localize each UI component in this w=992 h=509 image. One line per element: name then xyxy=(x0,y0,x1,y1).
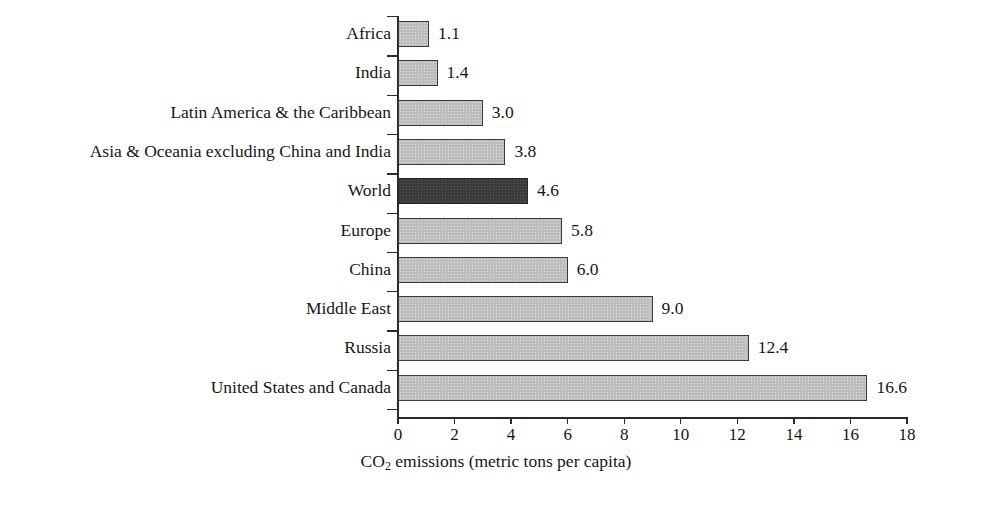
category-label: Russia xyxy=(344,337,391,358)
y-tick-2 xyxy=(387,95,398,96)
x-tick-6 xyxy=(567,417,568,424)
bar-value-label: 16.6 xyxy=(876,377,907,398)
x-tick-10 xyxy=(680,417,681,424)
x-tick-label-18: 18 xyxy=(887,425,927,445)
x-tick-2 xyxy=(454,417,455,424)
bar xyxy=(398,335,749,361)
y-tick-7 xyxy=(387,291,398,292)
bar-value-label: 5.8 xyxy=(571,220,593,241)
bar xyxy=(398,100,483,126)
bar xyxy=(398,139,505,165)
x-tick-label-16: 16 xyxy=(830,425,870,445)
y-tick-0 xyxy=(387,16,398,17)
category-label: Asia & Oceania excluding China and India xyxy=(90,141,391,162)
x-tick-label-2: 2 xyxy=(435,425,475,445)
bar-value-label: 4.6 xyxy=(537,180,559,201)
bar-value-label: 3.0 xyxy=(492,102,514,123)
y-tick-6 xyxy=(387,252,398,253)
x-tick-12 xyxy=(737,417,738,424)
bar-row: China6.0 xyxy=(0,257,992,283)
bar xyxy=(398,375,867,401)
x-axis-title-post: emissions (metric tons per capita) xyxy=(391,451,632,471)
x-axis-title-subscript: 2 xyxy=(385,459,391,473)
bar xyxy=(398,60,438,86)
category-label: Europe xyxy=(340,220,391,241)
bar-row: Africa1.1 xyxy=(0,21,992,47)
bar-value-label: 1.1 xyxy=(438,23,460,44)
bar xyxy=(398,218,562,244)
x-tick-label-14: 14 xyxy=(774,425,814,445)
category-label: Africa xyxy=(346,23,391,44)
x-tick-0 xyxy=(397,417,398,424)
bar-highlighted xyxy=(398,178,528,204)
bar-value-label: 6.0 xyxy=(577,259,599,280)
category-label: World xyxy=(348,180,391,201)
bar xyxy=(398,296,653,322)
y-tick-3 xyxy=(387,134,398,135)
y-tick-10 xyxy=(387,409,398,410)
x-axis-title-pre: CO xyxy=(361,451,385,471)
y-tick-9 xyxy=(387,370,398,371)
x-tick-label-8: 8 xyxy=(604,425,644,445)
y-tick-5 xyxy=(387,213,398,214)
x-tick-14 xyxy=(793,417,794,424)
plot-area: 024681012141618 Africa1.1India1.4Latin A… xyxy=(0,0,992,509)
bar-value-label: 3.8 xyxy=(514,141,536,162)
category-label: China xyxy=(349,259,391,280)
bar-row: World4.6 xyxy=(0,178,992,204)
x-axis-title: CO2 emissions (metric tons per capita) xyxy=(0,451,992,472)
bar-row: India1.4 xyxy=(0,60,992,86)
bar-row: Asia & Oceania excluding China and India… xyxy=(0,139,992,165)
x-tick-18 xyxy=(906,417,907,424)
bar-row: Latin America & the Caribbean3.0 xyxy=(0,100,992,126)
x-tick-label-4: 4 xyxy=(491,425,531,445)
x-tick-8 xyxy=(624,417,625,424)
x-tick-label-0: 0 xyxy=(378,425,418,445)
bar xyxy=(398,257,568,283)
bar-value-label: 1.4 xyxy=(447,62,469,83)
x-tick-label-10: 10 xyxy=(661,425,701,445)
y-tick-4 xyxy=(387,173,398,174)
x-tick-label-12: 12 xyxy=(717,425,757,445)
x-tick-16 xyxy=(850,417,851,424)
category-label: India xyxy=(355,62,391,83)
category-label: Middle East xyxy=(306,298,391,319)
bar-chart-figure: 024681012141618 Africa1.1India1.4Latin A… xyxy=(0,0,992,509)
bar-value-label: 9.0 xyxy=(662,298,684,319)
bar-row: Middle East9.0 xyxy=(0,296,992,322)
y-tick-8 xyxy=(387,330,398,331)
bar xyxy=(398,21,429,47)
bar-row: Russia12.4 xyxy=(0,335,992,361)
category-label: Latin America & the Caribbean xyxy=(170,102,391,123)
bar-value-label: 12.4 xyxy=(758,337,789,358)
y-tick-1 xyxy=(387,55,398,56)
category-label: United States and Canada xyxy=(211,377,391,398)
bar-row: United States and Canada16.6 xyxy=(0,375,992,401)
bar-row: Europe5.8 xyxy=(0,218,992,244)
x-tick-label-6: 6 xyxy=(548,425,588,445)
x-axis-line xyxy=(398,417,907,419)
x-tick-4 xyxy=(510,417,511,424)
